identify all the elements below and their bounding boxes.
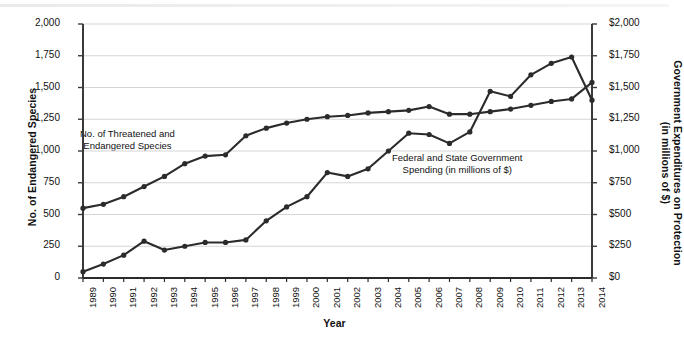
data-point bbox=[386, 109, 391, 114]
data-point bbox=[528, 72, 533, 77]
data-point bbox=[508, 106, 513, 111]
data-point bbox=[101, 261, 106, 266]
data-point bbox=[325, 114, 330, 119]
data-point bbox=[264, 218, 269, 223]
series-line-0 bbox=[83, 82, 592, 208]
data-point bbox=[427, 104, 432, 109]
data-point bbox=[467, 129, 472, 134]
data-point bbox=[549, 61, 554, 66]
data-point bbox=[121, 194, 126, 199]
data-point bbox=[203, 240, 208, 245]
data-point bbox=[223, 152, 228, 157]
data-point bbox=[101, 202, 106, 207]
data-point bbox=[80, 269, 85, 274]
data-point bbox=[447, 141, 452, 146]
data-point bbox=[549, 99, 554, 104]
data-point bbox=[203, 153, 208, 158]
data-point bbox=[345, 174, 350, 179]
data-point bbox=[589, 98, 594, 103]
data-point bbox=[182, 244, 187, 249]
data-point bbox=[488, 89, 493, 94]
y-axis-right-title-line1: Government Expenditures on Protection bbox=[672, 60, 684, 266]
data-point bbox=[488, 109, 493, 114]
data-point bbox=[223, 240, 228, 245]
data-point bbox=[569, 54, 574, 59]
data-point bbox=[508, 94, 513, 99]
data-point bbox=[121, 253, 126, 258]
data-point bbox=[365, 166, 370, 171]
data-point bbox=[386, 148, 391, 153]
data-point bbox=[304, 117, 309, 122]
data-point bbox=[406, 131, 411, 136]
data-point bbox=[141, 184, 146, 189]
data-point bbox=[589, 80, 594, 85]
series-line-1 bbox=[83, 57, 592, 272]
data-point bbox=[80, 206, 85, 211]
data-point bbox=[406, 108, 411, 113]
data-point bbox=[447, 112, 452, 117]
data-point bbox=[569, 96, 574, 101]
data-point bbox=[264, 126, 269, 131]
data-point bbox=[284, 120, 289, 125]
data-point bbox=[141, 239, 146, 244]
data-point bbox=[162, 174, 167, 179]
data-point bbox=[427, 132, 432, 137]
data-point bbox=[284, 204, 289, 209]
data-point bbox=[467, 112, 472, 117]
data-point bbox=[365, 110, 370, 115]
data-point bbox=[304, 194, 309, 199]
data-point bbox=[243, 133, 248, 138]
data-point bbox=[243, 237, 248, 242]
data-point bbox=[182, 161, 187, 166]
data-point bbox=[325, 170, 330, 175]
data-point bbox=[345, 113, 350, 118]
data-point bbox=[528, 103, 533, 108]
data-point bbox=[162, 247, 167, 252]
